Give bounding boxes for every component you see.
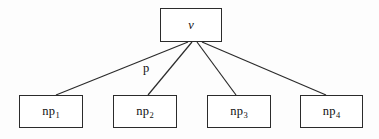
edge-v-np1 [56, 42, 188, 95]
edge-v-np3 [197, 42, 236, 95]
node-leaf-np2-label: np2 [136, 105, 153, 118]
node-leaf-np1: np1 [19, 95, 83, 128]
node-leaf-np4-subscript: 4 [336, 110, 340, 120]
node-root-label: v [188, 19, 194, 32]
node-leaf-np4-label: np4 [323, 105, 340, 118]
node-leaf-np4: np4 [300, 95, 363, 128]
node-leaf-np4-base: np [323, 104, 336, 118]
node-leaf-np2-subscript: 2 [150, 110, 154, 120]
node-leaf-np3-label: np3 [230, 105, 247, 118]
node-leaf-np3-base: np [230, 104, 243, 118]
node-leaf-np3-subscript: 3 [244, 110, 248, 120]
tree-diagram-canvas: v p np1 np2 np3 np4 [0, 0, 379, 139]
edge-v-np2 [148, 42, 192, 95]
node-leaf-np2: np2 [113, 95, 177, 128]
node-leaf-np3: np3 [207, 95, 271, 128]
node-root-v: v [160, 8, 222, 42]
node-leaf-np2-base: np [136, 104, 149, 118]
node-leaf-np1-subscript: 1 [56, 110, 60, 120]
edge-label-p: p [143, 62, 149, 75]
node-leaf-np1-label: np1 [42, 105, 59, 118]
edge-v-np4 [202, 42, 326, 95]
node-leaf-np1-base: np [42, 104, 55, 118]
